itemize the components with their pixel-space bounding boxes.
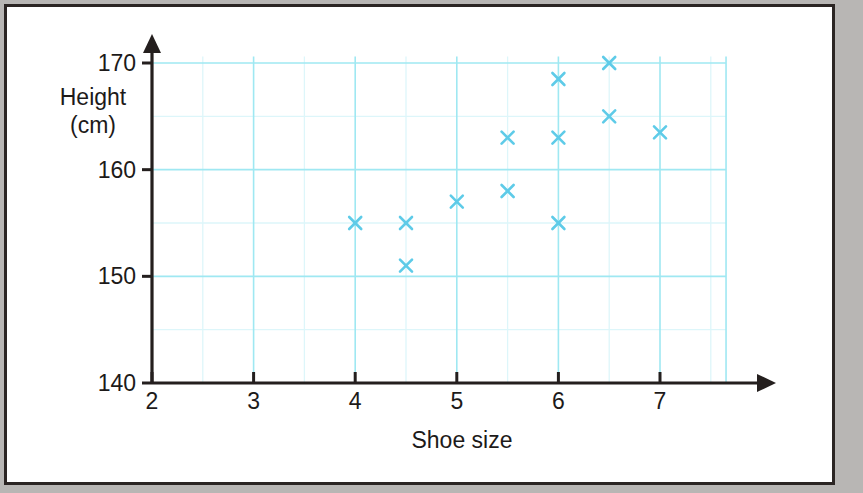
x-axis-tick-label: 2 [146,388,159,414]
y-axis-tick-label: 170 [98,50,136,76]
y-axis-tick-label: 140 [98,370,136,396]
y-axis-tick-label: 150 [98,263,136,289]
x-axis-tick-label: 3 [247,388,260,414]
y-axis-title-line2: (cm) [70,112,116,138]
x-axis-tick-label: 7 [654,388,667,414]
minor-gridlines [152,57,726,383]
x-axis-tick-label: 6 [552,388,565,414]
scatter-chart: 140150160170234567 Height(cm)Shoe size [0,0,863,493]
x-axis-tick-label: 5 [450,388,463,414]
x-axis-tick-label: 4 [349,388,362,414]
y-axis-title-line1: Height [60,84,127,110]
chart-canvas: 140150160170234567 Height(cm)Shoe size [0,0,863,493]
major-gridlines [152,57,726,383]
x-axis-arrowhead [757,374,776,392]
y-axis-arrowhead [143,34,161,53]
axes [143,34,776,392]
x-axis-title: Shoe size [411,427,512,453]
y-axis-tick-label: 160 [98,157,136,183]
axis-tick-labels: 140150160170234567 [98,50,667,414]
